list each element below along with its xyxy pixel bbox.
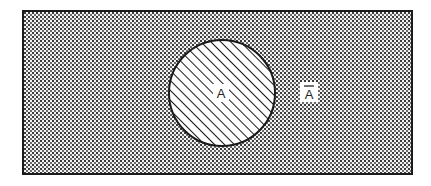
complement-label: A <box>305 87 314 102</box>
venn-diagram: A A <box>0 0 431 186</box>
set-a-label: A <box>217 86 226 101</box>
